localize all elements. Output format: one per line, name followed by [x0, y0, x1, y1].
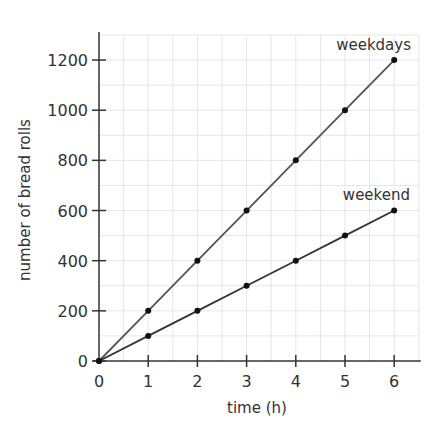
x-tick-label: 0: [94, 372, 104, 391]
data-point: [391, 208, 397, 214]
x-tick-label: 3: [242, 372, 252, 391]
data-point: [145, 333, 151, 339]
data-point: [194, 258, 200, 264]
y-tick-label: 0: [78, 352, 88, 371]
data-point: [293, 157, 299, 163]
series-label-weekend: weekend: [343, 186, 410, 204]
y-tick-label: 400: [57, 252, 88, 271]
y-axis-label: number of bread rolls: [16, 119, 34, 281]
axes: 0123456020040060080010001200: [47, 32, 421, 391]
data-point: [293, 258, 299, 264]
x-tick-label: 4: [291, 372, 301, 391]
data-point: [244, 208, 250, 214]
data-point: [342, 233, 348, 239]
y-tick-label: 800: [57, 151, 88, 170]
y-tick-label: 600: [57, 202, 88, 221]
data-point: [244, 283, 250, 289]
x-tick-label: 2: [192, 372, 202, 391]
x-axis-label: time (h): [227, 399, 287, 417]
x-tick-label: 5: [340, 372, 350, 391]
x-tick-label: 6: [389, 372, 399, 391]
data-point: [194, 308, 200, 314]
line-chart: 0123456020040060080010001200 time (h) nu…: [0, 0, 441, 443]
series-label-weekdays: weekdays: [336, 36, 411, 54]
y-tick-label: 1200: [47, 51, 88, 70]
data-point: [96, 358, 102, 364]
data-point: [342, 107, 348, 113]
x-tick-label: 1: [143, 372, 153, 391]
data-point: [391, 57, 397, 63]
y-tick-label: 200: [57, 302, 88, 321]
labels: time (h) number of bread rolls weekdays …: [16, 36, 411, 417]
y-tick-label: 1000: [47, 101, 88, 120]
data-point: [145, 308, 151, 314]
